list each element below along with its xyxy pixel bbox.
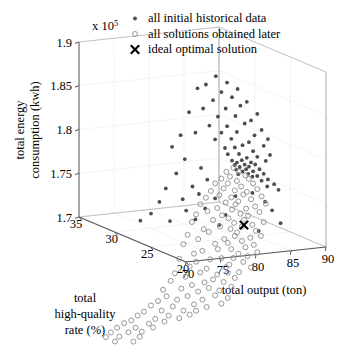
data-point-historical <box>243 163 247 167</box>
data-point-solution <box>194 212 199 217</box>
z-axis-title-line3: rate (%) <box>65 323 106 337</box>
data-point-historical <box>260 179 264 183</box>
data-point-solution <box>162 319 167 324</box>
data-point-solution <box>137 334 142 339</box>
data-point-solution <box>177 316 182 321</box>
data-point-historical <box>255 112 259 116</box>
data-point-solution <box>113 339 118 344</box>
data-point-solution <box>223 200 228 205</box>
data-point-historical <box>216 115 220 119</box>
data-point-solution <box>151 325 156 330</box>
data-point-solution <box>189 283 194 288</box>
data-point-solution <box>161 287 166 292</box>
data-point-historical <box>208 124 212 128</box>
data-point-historical <box>183 157 187 161</box>
data-point-historical <box>214 74 218 78</box>
data-point-solution <box>236 251 241 256</box>
data-point-historical <box>213 137 217 141</box>
data-point-solution <box>203 195 208 200</box>
data-point-historical <box>279 221 283 225</box>
z-axis-tick-label: 35 <box>70 217 83 231</box>
data-point-solution <box>239 239 244 244</box>
data-point-solution <box>228 227 233 232</box>
data-point-historical <box>251 169 255 173</box>
data-point-historical <box>201 107 205 111</box>
figure-3d-scatter: 1.71.751.81.851.9353025207075808590x 105… <box>0 0 356 360</box>
data-point-historical <box>266 178 270 182</box>
data-point-solution <box>179 286 184 291</box>
data-point-solution <box>237 270 242 275</box>
axis-gridline <box>255 255 256 259</box>
data-point-solution <box>206 229 211 234</box>
data-point-solution <box>126 330 131 335</box>
data-point-solution <box>229 247 234 252</box>
data-point-historical <box>243 122 247 126</box>
data-point-solution <box>185 294 190 299</box>
data-point-solution <box>244 189 249 194</box>
y-axis-tick-label: 1.85 <box>50 79 72 93</box>
data-point-historical <box>197 192 201 196</box>
data-point-historical <box>265 185 269 189</box>
data-point-solution <box>196 237 201 242</box>
data-point-solution <box>189 220 194 225</box>
z-axis-tick-label: 30 <box>105 232 118 246</box>
data-point-solution <box>170 304 175 309</box>
data-point-solution <box>257 210 262 215</box>
data-point-historical <box>226 152 230 156</box>
data-point-solution <box>232 275 237 280</box>
data-point-solution <box>213 293 218 298</box>
axis-gridline <box>75 42 79 43</box>
data-point-solution <box>224 169 229 174</box>
axis-gridline <box>185 262 186 266</box>
data-point-historical <box>174 172 178 176</box>
data-point-solution <box>166 313 171 318</box>
data-point-historical <box>220 131 224 135</box>
data-point-solution <box>232 188 237 193</box>
data-point-historical <box>224 107 228 111</box>
data-point-historical <box>245 156 249 160</box>
data-point-solution <box>221 186 226 191</box>
data-point-solution <box>206 286 211 291</box>
z-axis-title-line2: high-quality <box>54 307 116 321</box>
data-point-solution <box>225 240 230 245</box>
data-point-solution <box>219 301 224 306</box>
data-point-historical <box>251 191 255 195</box>
data-point-solution <box>213 181 218 186</box>
legend-marker-2 <box>131 45 139 53</box>
data-point-solution <box>181 242 186 247</box>
data-point-solution <box>149 303 154 308</box>
data-point-historical <box>233 146 237 150</box>
data-point-historical <box>168 219 172 223</box>
data-point-solution <box>250 222 255 227</box>
data-point-solution <box>159 308 164 313</box>
data-point-historical <box>170 145 174 149</box>
axis-gridline <box>325 247 326 251</box>
axis-gridline <box>79 158 219 173</box>
data-point-historical <box>262 172 266 176</box>
legend-marker-0 <box>133 17 137 21</box>
data-point-solution <box>115 325 120 330</box>
data-point-solution <box>194 308 199 313</box>
y-axis-tick-label: 1.75 <box>50 167 72 181</box>
data-point-historical <box>253 133 257 137</box>
x-axis-tick-label: 90 <box>322 252 335 266</box>
data-point-solution <box>213 241 218 246</box>
data-point-solution <box>108 330 113 335</box>
data-point-historical <box>238 165 242 169</box>
data-point-historical <box>264 159 268 163</box>
data-point-historical <box>220 90 224 94</box>
data-point-solution <box>244 206 249 211</box>
data-point-solution <box>117 334 122 339</box>
axis-gridline <box>115 217 255 232</box>
y-axis-tick-label: 1.9 <box>56 36 72 50</box>
data-point-solution <box>255 187 260 192</box>
data-point-solution <box>200 248 205 253</box>
data-point-solution <box>156 299 161 304</box>
data-point-historical <box>179 133 183 137</box>
x-axis-tick-label: 85 <box>287 256 300 270</box>
data-point-solution <box>192 302 197 307</box>
data-point-solution <box>198 270 203 275</box>
data-point-solution <box>196 289 201 294</box>
axis-gridline <box>79 217 186 262</box>
axis-gridline <box>79 71 219 86</box>
